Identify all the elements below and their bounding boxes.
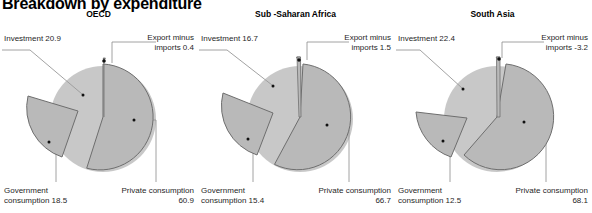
label-private-consumption: Private consumption 60.9 [122, 186, 194, 205]
label-priv-line2: 66.7 [319, 196, 391, 206]
label-gov-line2: consumption 15.4 [201, 196, 264, 206]
label-export-minus-imports: Export minus imports -3.2 [541, 33, 588, 52]
dot-government [442, 140, 445, 143]
pie-slices [27, 58, 156, 172]
label-priv-line1: Private consumption [122, 186, 194, 196]
label-government-consumption: Government consumption 18.5 [4, 186, 67, 205]
label-export-line2: imports -3.2 [541, 43, 588, 53]
label-priv-line2: 60.9 [122, 196, 194, 206]
dot-government [247, 138, 250, 141]
label-gov-line2: consumption 18.5 [4, 196, 67, 206]
label-gov-line1: Government [398, 186, 461, 196]
pie-chart-oecd [0, 0, 197, 213]
dot-export [497, 57, 501, 61]
label-private-consumption: Private consumption 66.7 [319, 186, 391, 205]
dot-investment [82, 94, 85, 97]
dot-private [133, 119, 136, 122]
pie-chart-sub-saharan-africa [197, 0, 394, 213]
pie-panel-oecd: OECD [0, 0, 197, 213]
label-government-consumption: Government consumption 12.5 [398, 186, 461, 205]
label-priv-line2: 68.1 [516, 196, 588, 206]
label-priv-line1: Private consumption [516, 186, 588, 196]
dot-private [326, 124, 329, 127]
label-export-minus-imports: Export minus imports 1.5 [344, 33, 391, 52]
label-investment: Investment 16.7 [201, 34, 258, 44]
pie-slices [416, 57, 554, 172]
chart-figure: Breakdown by expenditure OECD [0, 0, 592, 213]
dot-investment [272, 85, 275, 88]
label-gov-line1: Government [4, 186, 67, 196]
label-gov-line1: Government [201, 186, 264, 196]
label-export-line2: imports 0.4 [147, 43, 194, 53]
pie-panel-sub-saharan-africa: Sub -Saharan Africa Investm [197, 0, 394, 213]
dot-export [102, 59, 106, 63]
pie-slices [221, 57, 353, 172]
pie-panel-south-asia: South Asia Investment 22.4 [394, 0, 591, 213]
label-export-line1: Export minus [344, 33, 391, 43]
label-gov-line2: consumption 12.5 [398, 196, 461, 206]
label-private-consumption: Private consumption 68.1 [516, 186, 588, 205]
label-priv-line1: Private consumption [319, 186, 391, 196]
dot-private [523, 121, 526, 124]
label-export-minus-imports: Export minus imports 0.4 [147, 33, 194, 52]
label-export-line1: Export minus [541, 33, 588, 43]
dot-export [297, 58, 301, 62]
dot-investment [462, 88, 465, 91]
label-export-line1: Export minus [147, 33, 194, 43]
label-export-line2: imports 1.5 [344, 43, 391, 53]
pie-chart-south-asia [394, 0, 591, 213]
label-investment: Investment 22.4 [398, 34, 455, 44]
label-government-consumption: Government consumption 15.4 [201, 186, 264, 205]
dot-government [48, 141, 51, 144]
label-investment: Investment 20.9 [4, 34, 61, 44]
